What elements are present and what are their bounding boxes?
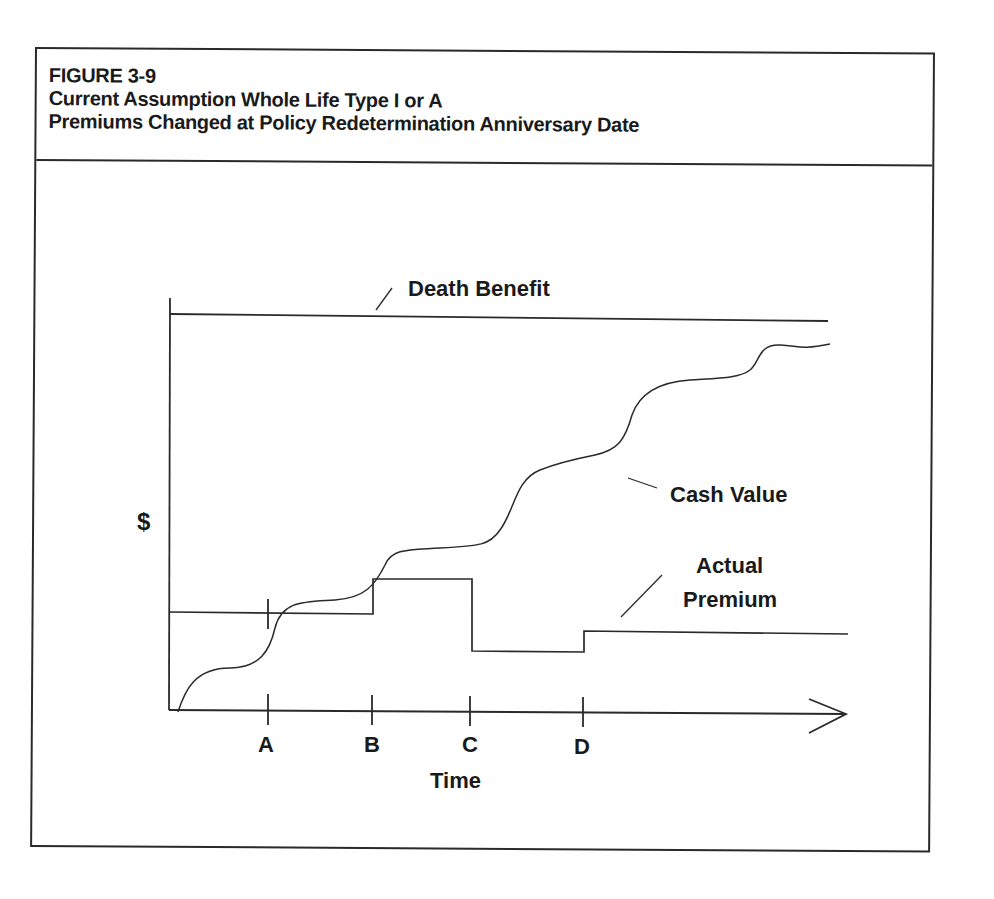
death-benefit-pointer [376,288,392,310]
actual-premium-label-line-2: Premium [683,587,777,612]
x-axis [169,710,846,714]
death-benefit-label: Death Benefit [408,276,550,301]
cash-value-pointer [628,478,657,488]
tick-label-b: B [364,732,380,757]
diagram-plot: Death Benefit Cash Value Actual Premium … [0,0,994,899]
tick-label-d: D [574,734,590,759]
y-axis-label: $ [137,508,151,535]
x-axis-label: Time [430,768,481,793]
cash-value-curve [178,344,830,712]
tick-label-a: A [258,732,274,757]
actual-premium-pointer [621,575,662,617]
death-benefit-line [170,314,828,321]
x-axis-arrow-icon [809,699,846,733]
actual-premium-label-line-1: Actual [696,553,763,578]
y-axis [169,298,170,710]
tick-label-c: C [462,732,478,757]
cash-value-label: Cash Value [670,482,787,507]
